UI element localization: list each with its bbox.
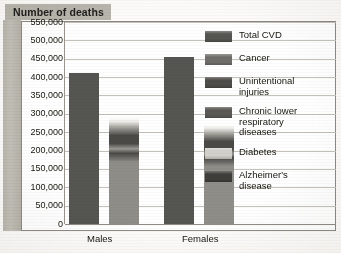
bar-body <box>69 73 99 224</box>
legend-swatch <box>205 31 232 42</box>
legend-label: Chronic lower respiratory diseases <box>239 106 297 138</box>
y-axis-tick-label: 450,000 <box>22 54 63 63</box>
y-axis-tick-label: 50,000 <box>22 201 63 210</box>
y-axis-tick-label: 300,000 <box>22 109 63 118</box>
legend-swatch <box>205 77 232 88</box>
legend-item: Alzheimer's disease <box>205 170 288 191</box>
y-axis-tick-label: 100,000 <box>22 183 63 192</box>
x-axis-tick-label: Females <box>182 233 218 244</box>
legend-label: Alzheimer's disease <box>239 170 288 191</box>
legend-swatch <box>205 171 232 182</box>
legend-label: Total CVD <box>239 30 282 41</box>
y-axis-tick-label: 400,000 <box>22 73 63 82</box>
axis-baseline <box>65 224 336 225</box>
legend-label: Diabetes <box>239 147 277 158</box>
legend-label: Unintentional injuries <box>239 76 294 97</box>
y-axis-line <box>64 22 65 224</box>
legend-item: Unintentional injuries <box>205 76 294 97</box>
legend-item: Chronic lower respiratory diseases <box>205 106 297 138</box>
bar-body <box>109 118 139 225</box>
bar-top-shading <box>109 118 139 163</box>
y-axis-tick-labels: 550,000500,000450,000400,000350,000300,0… <box>22 22 64 230</box>
legend-swatch <box>205 107 232 118</box>
legend-swatch <box>205 54 232 65</box>
y-axis-tick-label: 550,000 <box>22 18 63 27</box>
page-edge-band <box>3 20 21 231</box>
x-axis-tick-label: Males <box>87 233 112 244</box>
y-axis-tick-label: 0 <box>22 220 63 229</box>
bar <box>69 73 99 224</box>
y-axis-tick-label: 150,000 <box>22 164 63 173</box>
legend-item: Cancer <box>205 53 270 65</box>
legend-label: Cancer <box>239 53 270 64</box>
y-axis-tick-label: 500,000 <box>22 36 63 45</box>
bar-body <box>164 57 194 224</box>
legend-item: Diabetes <box>205 147 277 159</box>
y-axis-tick-label: 200,000 <box>22 146 63 155</box>
bar-chart: Number of deaths 550,000500,000450,00040… <box>0 0 341 253</box>
legend-swatch <box>205 148 232 159</box>
bar <box>109 118 139 225</box>
bar <box>164 57 194 224</box>
y-axis-tick-label: 250,000 <box>22 128 63 137</box>
y-axis-tick-label: 350,000 <box>22 91 63 100</box>
legend-item: Total CVD <box>205 30 282 42</box>
